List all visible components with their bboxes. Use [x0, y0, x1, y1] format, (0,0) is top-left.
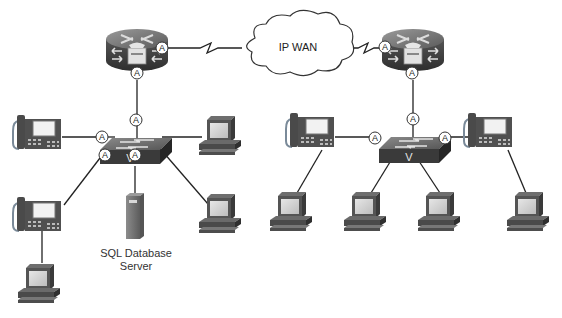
badge-a-icon: A [130, 114, 142, 126]
pc-left-1[interactable] [199, 116, 241, 155]
link-pc-right-1 [297, 150, 322, 193]
server-label-line1: SQL Database [100, 247, 172, 259]
wan-link-right [353, 43, 380, 53]
svg-text:A: A [99, 132, 105, 142]
server-label-line2: Server [120, 260, 153, 272]
badge-a-icon: A [439, 132, 451, 144]
ip-wan-label: IP WAN [279, 41, 318, 53]
badge-a-icon: A [129, 149, 141, 161]
badge-a-icon: A [99, 149, 111, 161]
badge-a-icon: A [131, 67, 143, 79]
pc-right-1[interactable] [270, 192, 312, 231]
badge-a-icon: A [406, 67, 418, 79]
svg-text:A: A [132, 150, 138, 160]
svg-text:A: A [159, 43, 165, 53]
svg-text:A: A [133, 115, 139, 125]
voice-router-right[interactable] [382, 29, 444, 71]
network-diagram: IP WAN V V SQL Database Server A A A A A… [0, 0, 562, 318]
svg-text:A: A [382, 42, 388, 52]
svg-text:A: A [409, 68, 415, 78]
svg-text:A: A [372, 133, 378, 143]
ip-phone-left-2[interactable] [13, 197, 61, 231]
badge-a-icon: A [96, 131, 108, 143]
badge-a-icon: A [369, 132, 381, 144]
badge-a-icon: A [407, 113, 419, 125]
badge-a-icon: A [379, 41, 391, 53]
switch-label-v: V [405, 151, 413, 163]
link-pc-right-4 [508, 150, 526, 193]
ip-phone-right-2[interactable] [464, 113, 512, 147]
link-phone-left-2 [64, 158, 100, 205]
ip-phone-right-1[interactable] [286, 113, 334, 147]
ip-phone-left-1[interactable] [13, 115, 61, 149]
svg-text:A: A [442, 133, 448, 143]
svg-text:A: A [410, 114, 416, 124]
svg-text:A: A [134, 68, 140, 78]
sql-database-server[interactable] [126, 193, 144, 239]
wan-link-left [168, 43, 242, 53]
pc-left-3[interactable] [18, 264, 60, 303]
pc-left-2[interactable] [199, 194, 241, 233]
pc-right-4[interactable] [507, 192, 549, 231]
badge-a-icon: A [156, 42, 168, 54]
pc-right-2[interactable] [344, 192, 386, 231]
svg-text:A: A [102, 150, 108, 160]
pc-right-3[interactable] [418, 192, 460, 231]
